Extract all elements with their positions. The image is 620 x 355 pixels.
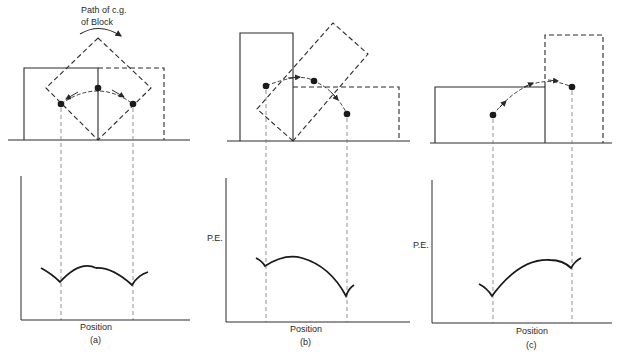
cg-point-end (130, 101, 137, 108)
panel-b-pe-graph (226, 178, 410, 322)
cg-point-top (95, 85, 102, 92)
pe-curve (41, 266, 148, 285)
cg-path-annotation-line2: of Block (81, 17, 113, 27)
cg-path (61, 91, 133, 104)
cg-path-annotation-line1: Path of c.g. (81, 5, 127, 15)
pe-curve (256, 257, 354, 296)
panel-c-block-diagram (430, 35, 612, 143)
panel-a-caption: (a) (90, 335, 101, 345)
panel-b (226, 23, 410, 322)
cg-point-top (311, 78, 318, 85)
panel-a-block-diagram (8, 28, 190, 140)
panel-c-pe-graph (432, 180, 612, 323)
panel-a (8, 28, 190, 320)
cg-path-arrow-left (66, 92, 78, 99)
panel-c-xlabel: Position (516, 326, 548, 336)
cg-point-end (344, 111, 351, 118)
panel-c (430, 35, 612, 323)
panel-a-pe-graph (21, 176, 190, 320)
cg-point-start (58, 101, 65, 108)
stability-diagram (0, 0, 620, 355)
pe-curve (479, 258, 581, 296)
cg-point-end (569, 84, 576, 91)
cg-point-start (263, 83, 270, 90)
rotation-arrow-icon (80, 28, 121, 36)
panel-b-xlabel: Position (290, 324, 322, 334)
panel-b-caption: (b) (300, 337, 311, 347)
panel-c-caption: (c) (526, 340, 537, 350)
panel-b-ylabel: P.E. (207, 233, 223, 243)
panel-c-ylabel: P.E. (413, 240, 429, 250)
cg-path-arrow-3 (548, 80, 558, 81)
cg-point-start (490, 112, 497, 119)
cg-path-arrow-2 (524, 83, 533, 87)
cg-path-arrow-1 (500, 101, 506, 107)
panel-b-block-diagram (227, 23, 410, 141)
panel-a-xlabel: Position (80, 322, 112, 332)
